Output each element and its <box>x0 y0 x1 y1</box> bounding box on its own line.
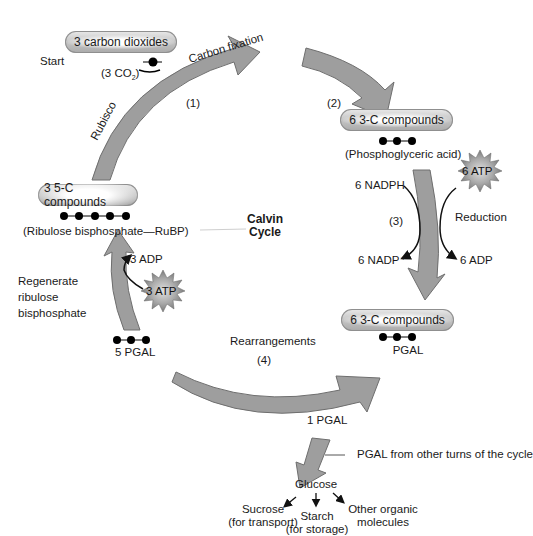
nadp-label: 6 NADP⁺ <box>358 254 406 267</box>
carbon-fixation-arrow <box>92 36 260 180</box>
pga-molecule <box>379 137 416 145</box>
rubp-label: (Ribulose bisphosphate—RuBP) <box>23 225 189 238</box>
reduction-arrow <box>408 170 445 300</box>
pgal-label: PGAL <box>388 344 428 357</box>
glucose-label: Glucose <box>295 478 337 491</box>
pill-label: 3 5-C compounds <box>38 181 138 209</box>
product-other-organic: Other organicmolecules <box>343 503 423 529</box>
rearrangements-label: Rearrangements <box>230 335 316 348</box>
five-pgal-label: 5 PGAL <box>115 346 155 359</box>
co2-molecule <box>139 58 162 73</box>
phosphorylation-arrow <box>302 48 394 118</box>
reduction-label: Reduction <box>455 211 507 224</box>
product-starch: Starch(for storage) <box>282 510 352 536</box>
other-turns-label: PGAL from other turns of the cycle <box>357 448 533 461</box>
five-pgal-molecule <box>113 336 150 344</box>
pgal-molecule <box>379 333 416 341</box>
atp-curve <box>440 188 456 258</box>
step-2-label: (2) <box>327 97 341 110</box>
step-1-label: (1) <box>186 97 200 110</box>
pill-label: 3 carbon dioxides <box>68 35 174 49</box>
pill-pgal: 6 3-C compounds <box>341 309 454 331</box>
one-pgal-label: 1 PGAL <box>307 414 347 427</box>
pill-carbon-dioxides: 3 carbon dioxides <box>65 31 177 53</box>
pill-label: 6 3-C compounds <box>343 113 450 127</box>
atp-6-label: 6 ATP <box>462 165 492 177</box>
atp-3-label: 3 ATP <box>146 285 176 297</box>
nadph-label: 6 NADPH <box>355 179 405 192</box>
pill-label: 6 3-C compounds <box>344 313 451 327</box>
adp-6-label: 6 ADP <box>460 254 493 267</box>
co2-formula-label: (3 CO2) <box>101 67 139 84</box>
regeneration-arrow <box>104 230 140 330</box>
step-4-label: (4) <box>257 354 271 367</box>
step-3-label: (3) <box>389 215 403 228</box>
pga-label: (Phosphoglyceric acid) <box>345 148 461 161</box>
pill-phosphoglyceric-acid: 6 3-C compounds <box>340 109 453 131</box>
start-label: Start <box>40 55 64 68</box>
pill-rubp: 3 5-C compounds <box>38 184 138 206</box>
rubp-molecule <box>60 212 130 220</box>
adp-3-label: 3 ADP <box>130 253 163 266</box>
regenerate-label: Regenerate ribulose bisphosphate <box>18 273 86 321</box>
calvin-cycle-title: CalvinCycle <box>240 213 290 239</box>
